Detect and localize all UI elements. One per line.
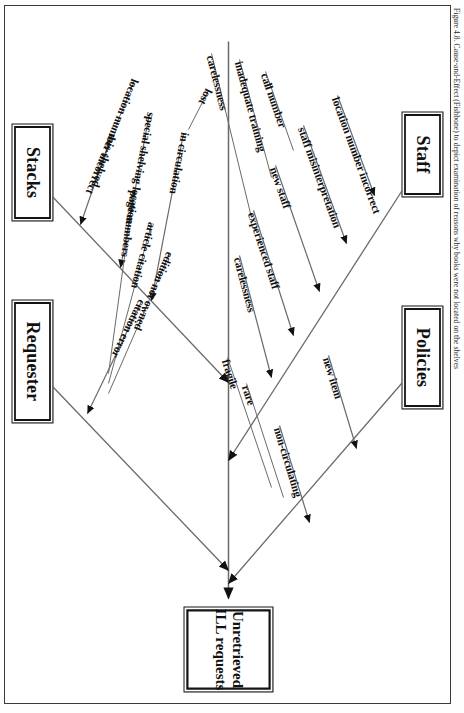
category-box-policies: Policies — [401, 305, 443, 409]
category-label-requester: Requester — [22, 321, 43, 401]
rotated-diagram-stage: Unretrieved ILL requests Stacks Requeste… — [4, 5, 451, 704]
figure-plate-border: Unretrieved ILL requests Stacks Requeste… — [4, 5, 451, 704]
category-box-stacks: Stacks — [11, 123, 53, 221]
category-box-requester: Requester — [11, 299, 53, 423]
effect-box: Unretrieved ILL requests — [183, 606, 273, 692]
category-label-staff: Staff — [412, 135, 433, 173]
effect-label-line1: Unretrieved — [228, 610, 245, 687]
category-box-staff: Staff — [401, 111, 443, 197]
fishbone-lines — [4, 5, 451, 704]
figure-caption: Figure 4.8. Cause-and-Effect (Fishbone) … — [448, 0, 462, 713]
category-label-policies: Policies — [412, 327, 433, 387]
fishbone-diagram: Unretrieved ILL requests Stacks Requeste… — [4, 5, 451, 704]
bone-line-requester — [32, 365, 228, 570]
category-label-stacks: Stacks — [22, 146, 43, 197]
bone-line-policies — [228, 360, 421, 583]
figure-page: Unretrieved ILL requests Stacks Requeste… — [0, 0, 464, 713]
figure-caption-text: Figure 4.8. Cause-and-Effect (Fishbone) … — [452, 8, 461, 698]
effect-label-line2: ILL requests — [211, 608, 228, 690]
